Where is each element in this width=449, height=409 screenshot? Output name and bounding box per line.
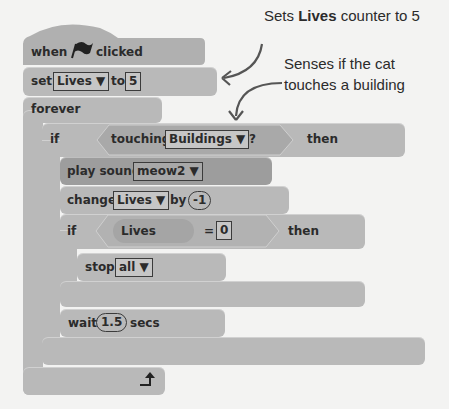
arrow-to-set-icon: [0, 0, 449, 409]
